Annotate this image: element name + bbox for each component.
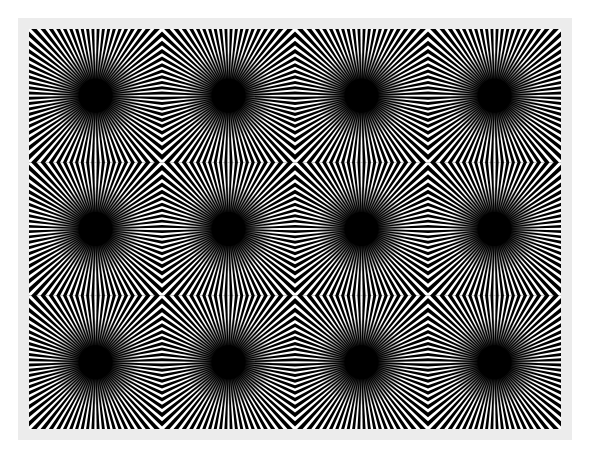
starburst-grid	[29, 29, 561, 429]
burst-center	[345, 212, 379, 246]
burst-center	[212, 79, 246, 113]
burst-center	[478, 79, 512, 113]
burst-center	[345, 79, 379, 113]
burst-center	[478, 345, 512, 379]
burst-center	[79, 79, 113, 113]
starburst-pattern	[29, 29, 561, 429]
burst-center	[212, 212, 246, 246]
burst-center	[345, 345, 379, 379]
burst-center	[79, 212, 113, 246]
burst-center	[79, 345, 113, 379]
burst-center	[212, 345, 246, 379]
burst-center	[478, 212, 512, 246]
